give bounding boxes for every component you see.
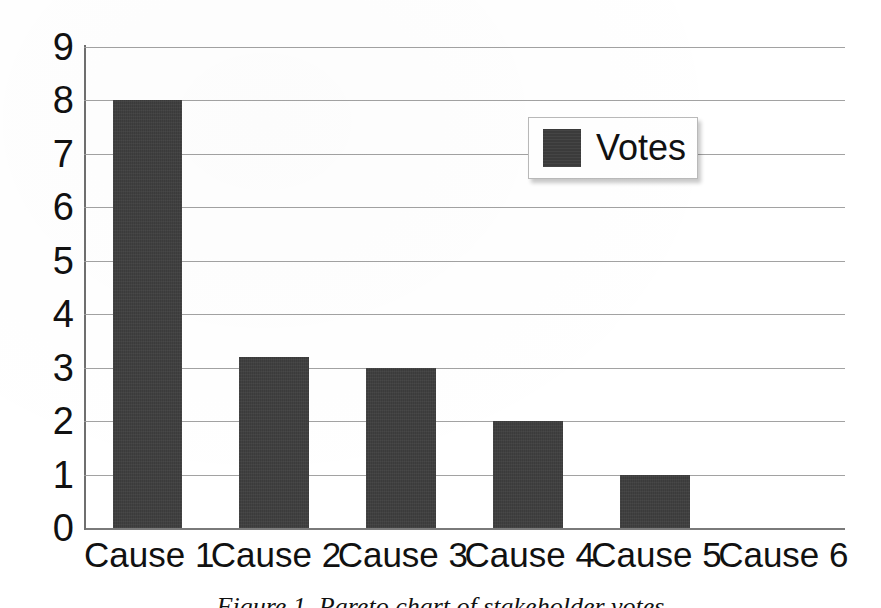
- gridline-y-0: [84, 528, 845, 530]
- bar-cause-3: [366, 368, 436, 528]
- x-axis-tick-labels: Cause 1Cause 2Cause 3Cause 4Cause 5Cause…: [84, 537, 845, 585]
- gridline-y-2: [84, 421, 845, 422]
- y-tick-label-5: 5: [12, 242, 74, 280]
- x-tick-label-cause-4: Cause 4: [465, 537, 592, 572]
- legend-swatch-votes: [543, 129, 581, 167]
- bar-cause-1: [113, 100, 183, 528]
- y-tick-label-0: 0: [12, 509, 74, 547]
- plot-area: [84, 47, 845, 528]
- y-tick-label-9: 9: [12, 28, 74, 66]
- legend-label-votes: Votes: [596, 130, 686, 166]
- gridline-y-3: [84, 368, 845, 369]
- x-tick-label-cause-6: Cause 6: [718, 537, 845, 572]
- y-tick-label-4: 4: [12, 295, 74, 333]
- y-tick-label-6: 6: [12, 188, 74, 226]
- figure-caption: Figure 1. Pareto chart of stakeholder vo…: [0, 592, 881, 608]
- gridline-y-1: [84, 475, 845, 476]
- gridline-y-5: [84, 261, 845, 262]
- bar-cause-2: [239, 357, 309, 528]
- bar-cause-4: [493, 421, 563, 528]
- y-tick-label-2: 2: [12, 402, 74, 440]
- y-tick-label-7: 7: [12, 135, 74, 173]
- y-tick-label-1: 1: [12, 456, 74, 494]
- x-tick-label-cause-3: Cause 3: [338, 537, 465, 572]
- gridline-y-8: [84, 100, 845, 101]
- y-axis-tick-labels: 9876543210: [0, 0, 74, 608]
- gridline-y-4: [84, 314, 845, 315]
- gridline-y-7: [84, 154, 845, 155]
- x-tick-label-cause-2: Cause 2: [211, 537, 338, 572]
- bar-cause-5: [620, 475, 690, 528]
- chart-legend: Votes: [528, 117, 698, 179]
- chart-figure: 9876543210 Cause 1Cause 2Cause 3Cause 4C…: [0, 0, 881, 608]
- x-tick-label-cause-1: Cause 1: [84, 537, 211, 572]
- gridline-y-9: [84, 47, 845, 48]
- y-tick-label-3: 3: [12, 349, 74, 387]
- x-tick-label-cause-5: Cause 5: [591, 537, 718, 572]
- y-tick-label-8: 8: [12, 81, 74, 119]
- gridline-y-6: [84, 207, 845, 208]
